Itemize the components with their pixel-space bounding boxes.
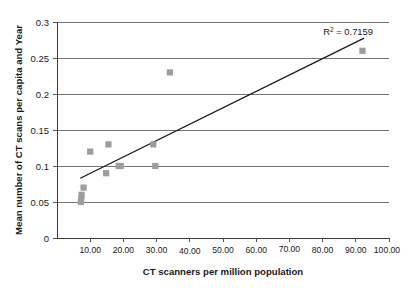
data-point — [103, 170, 109, 176]
x-tick-marks — [90, 238, 389, 242]
y-tick-label-0.05: 0.05 — [31, 197, 50, 208]
data-point — [167, 69, 173, 75]
y-tick-label-0.25: 0.25 — [31, 53, 50, 64]
y-tick-label-0.3: 0.3 — [36, 17, 49, 28]
y-tick-label-0.15: 0.15 — [31, 125, 50, 136]
x-tick-label-50: 50.00 — [212, 245, 234, 255]
y-tick-labels: 0.3 0.25 0.2 0.15 0.1 0.05 0 — [31, 17, 50, 244]
data-point — [87, 149, 93, 155]
y-tick-label-0.2: 0.2 — [36, 89, 49, 100]
r-squared-suffix: = 0.7159 — [334, 26, 373, 37]
chart-canvas: 0.3 0.25 0.2 0.15 0.1 0.05 0 10.00 20.00… — [0, 0, 416, 288]
x-tick-label-60: 60.00 — [245, 245, 267, 255]
data-point — [118, 163, 124, 169]
x-tick-label-100: 100.00 — [374, 245, 401, 255]
data-point — [150, 141, 156, 147]
trendline — [80, 38, 364, 178]
data-point — [105, 141, 111, 147]
data-point — [152, 163, 158, 169]
r-squared-annotation: R2 = 0.7159 — [323, 26, 373, 38]
x-axis-title: CT scanners per million population — [143, 266, 304, 277]
x-tick-label-40: 40.00 — [179, 246, 201, 256]
x-tick-label-80: 80.00 — [312, 245, 334, 255]
x-tick-labels: 10.00 20.00 30.00 40.00 50.00 60.00 70.0… — [79, 244, 400, 256]
y-tick-label-0.1: 0.1 — [36, 161, 49, 172]
y-tick-label-0: 0 — [44, 233, 49, 244]
y-axis-title: Mean number of CT scans per capita and Y… — [13, 25, 24, 235]
x-tick-label-70: 70.00 — [279, 244, 301, 254]
x-tick-label-20: 20.00 — [113, 245, 135, 255]
x-tick-label-10: 10.00 — [79, 245, 101, 255]
scatter-chart: 0.3 0.25 0.2 0.15 0.1 0.05 0 10.00 20.00… — [0, 0, 416, 288]
x-tick-label-90: 90.00 — [345, 245, 367, 255]
data-points — [78, 48, 366, 205]
data-point — [78, 192, 84, 198]
x-tick-label-30: 30.00 — [146, 245, 168, 255]
y-tick-marks — [53, 22, 57, 238]
data-point — [359, 48, 365, 54]
data-point — [80, 185, 86, 191]
